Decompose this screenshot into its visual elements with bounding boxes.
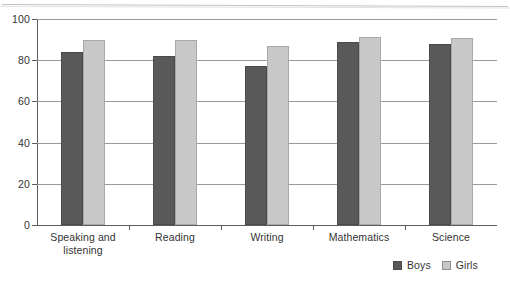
- gridline: [37, 19, 497, 20]
- bar-boys: [61, 52, 83, 225]
- bar-girls: [451, 38, 473, 225]
- scan-artifact-line-secondary: [0, 6, 510, 9]
- legend-item-girls[interactable]: Girls: [442, 259, 478, 271]
- y-axis-tick: [32, 225, 37, 226]
- y-axis-tick: [32, 19, 37, 20]
- x-axis-tick: [221, 225, 222, 230]
- x-axis-category-label: Mathematics: [329, 231, 390, 244]
- plot-area: 020406080100Speaking and listeningReadin…: [37, 19, 497, 225]
- bar-chart: 020406080100Speaking and listeningReadin…: [0, 0, 510, 288]
- x-axis-category-label: Reading: [155, 231, 195, 244]
- bar-girls: [267, 46, 289, 225]
- x-axis-line: [37, 225, 497, 226]
- legend-item-boys[interactable]: Boys: [393, 259, 431, 271]
- legend-label: Girls: [456, 259, 478, 271]
- y-axis-label: 40: [18, 137, 30, 149]
- bar-girls: [359, 37, 381, 225]
- y-axis-tick: [32, 101, 37, 102]
- y-axis-tick: [32, 184, 37, 185]
- bar-boys: [153, 56, 175, 225]
- chart-legend: BoysGirls: [393, 259, 478, 271]
- y-axis-tick: [32, 143, 37, 144]
- x-axis-tick: [129, 225, 130, 230]
- y-axis-label: 20: [18, 178, 30, 190]
- x-axis-category-label: Science: [432, 231, 470, 244]
- y-axis-tick: [32, 60, 37, 61]
- bar-girls: [83, 40, 105, 225]
- y-axis-line: [37, 19, 38, 226]
- x-axis-category-label: Writing: [250, 231, 283, 244]
- y-axis-label: 60: [18, 95, 30, 107]
- x-axis-category-label: Speaking and listening: [50, 231, 115, 257]
- x-axis-tick: [313, 225, 314, 230]
- bar-girls: [175, 40, 197, 225]
- bar-boys: [429, 44, 451, 225]
- y-axis-label: 0: [24, 219, 30, 231]
- bar-boys: [245, 66, 267, 225]
- girls-swatch-icon: [442, 261, 451, 270]
- bar-boys: [337, 42, 359, 225]
- y-axis-label: 100: [12, 13, 30, 25]
- x-axis-tick: [405, 225, 406, 230]
- boys-swatch-icon: [393, 261, 402, 270]
- y-axis-label: 80: [18, 54, 30, 66]
- legend-label: Boys: [407, 259, 431, 271]
